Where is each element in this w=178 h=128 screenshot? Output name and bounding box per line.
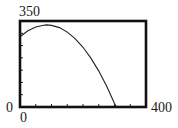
plot-frame [20, 21, 146, 107]
plot-area [0, 0, 178, 128]
axis-ticks [20, 33, 130, 107]
projectile-curve [20, 25, 116, 107]
